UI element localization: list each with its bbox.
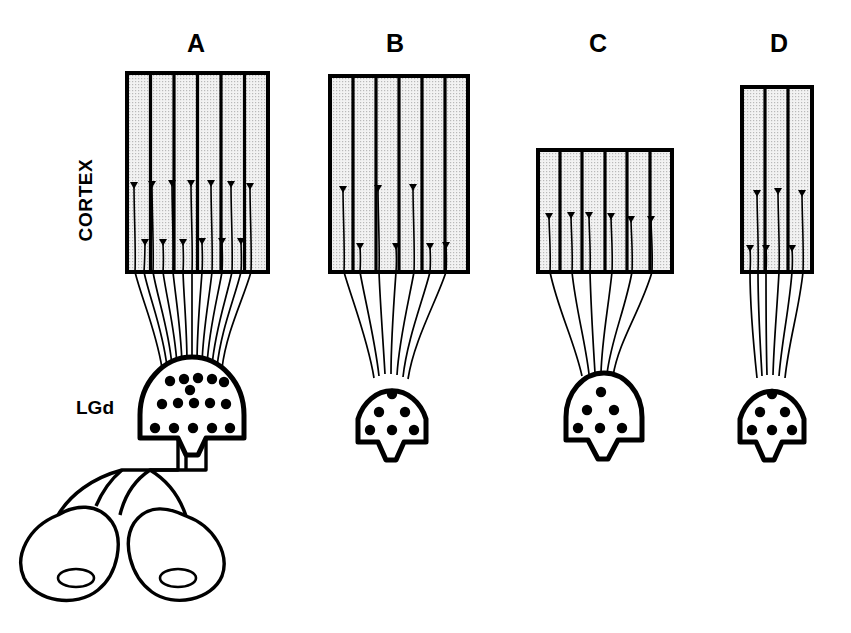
cortex-axis-label: CORTEX [75,159,96,242]
neuroanatomy-schematic: CORTEX LGd A [0,0,851,633]
panel-d-label: D [770,29,788,57]
panel-a-label: A [187,29,205,57]
panel-c-label: C [589,29,607,57]
panel-a-right-pupil [160,569,196,587]
lgd-region-label: LGd [76,397,114,418]
figure-root: CORTEX LGd A [0,0,851,633]
panel-a-left-pupil [58,569,94,587]
panel-d-cortex-slab [742,87,812,272]
panel-b-label: B [386,29,404,57]
